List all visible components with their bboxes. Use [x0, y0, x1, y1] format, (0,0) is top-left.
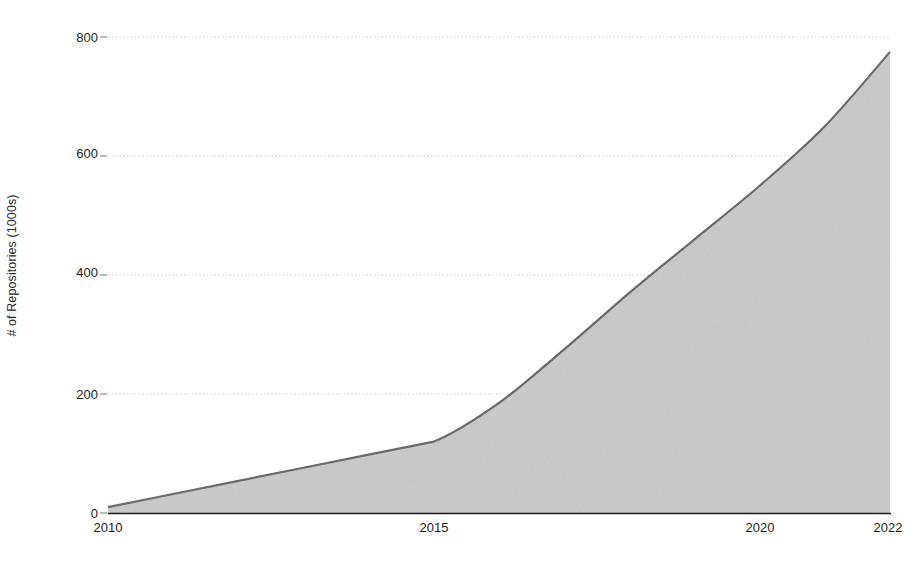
area-fill	[108, 52, 890, 513]
plot-area	[0, 0, 921, 575]
x-tick-label-2010: 2010	[94, 520, 123, 535]
y-tick-label-200: 200	[36, 387, 98, 402]
x-tick-label-2015: 2015	[420, 520, 449, 535]
y-tick-label-0: 0	[36, 506, 98, 521]
area-chart: # of Repositories (1000s)	[0, 0, 921, 575]
y-tick-label-600: 600	[36, 146, 98, 161]
y-tick-label-400: 400	[36, 265, 98, 280]
x-tick-label-2022: 2022	[874, 520, 903, 535]
x-tick-label-2020: 2020	[746, 520, 775, 535]
y-tick-marks	[100, 37, 107, 513]
y-tick-label-800: 800	[36, 30, 98, 45]
